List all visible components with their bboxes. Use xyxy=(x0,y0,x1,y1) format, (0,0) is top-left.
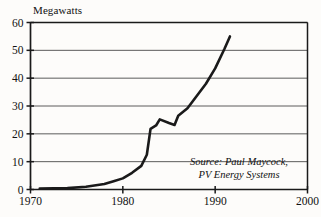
x-tick-label-1980: 1980 xyxy=(111,195,134,207)
y-tick-label-30: 30 xyxy=(12,100,24,112)
y-tick-label-10: 10 xyxy=(12,156,24,168)
y-tick-label-0: 0 xyxy=(18,184,24,196)
y-tick-label-20: 20 xyxy=(12,128,24,140)
gridlines-group xyxy=(31,23,308,162)
y-tick-label-40: 40 xyxy=(12,72,24,84)
chart-plot-area: 0102030405060 1970198019902000 xyxy=(0,0,321,217)
y-tick-label-50: 50 xyxy=(12,44,24,56)
x-tick-label-1990: 1990 xyxy=(204,195,227,207)
x-tick-label-1970: 1970 xyxy=(19,195,42,207)
x-tick-label-2000: 2000 xyxy=(296,195,319,207)
y-tick-label-60: 60 xyxy=(12,17,24,29)
chart-container: Megawatts 0102030405060 1970198019902000… xyxy=(0,0,321,217)
source-annotation: Source: Paul Maycock, PV Energy Systems xyxy=(169,156,309,181)
